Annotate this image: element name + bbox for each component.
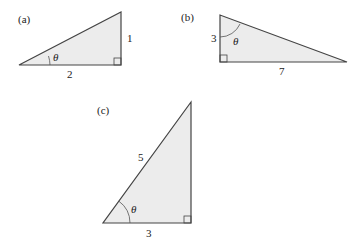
triangle-b: (b) θ 3 7 (181, 11, 347, 77)
side-adjacent-a: 2 (67, 68, 73, 80)
side-opposite-a: 1 (127, 32, 133, 44)
triangle-a: (a) θ 1 2 (18, 12, 133, 80)
side-adjacent-c: 3 (146, 227, 152, 239)
side-hypotenuse-c: 5 (138, 151, 144, 163)
side-adjacent-b: 3 (211, 32, 217, 44)
triangle-b-shape (220, 15, 347, 62)
side-opposite-b: 7 (279, 65, 285, 77)
theta-b: θ (233, 35, 239, 47)
label-c: (c) (97, 104, 110, 117)
theta-c: θ (131, 203, 137, 215)
triangle-a-shape (19, 12, 121, 65)
triangles-diagram: (a) θ 1 2 (b) θ 3 7 (c) θ 5 3 (0, 0, 362, 239)
theta-a: θ (53, 51, 59, 63)
triangle-c: (c) θ 5 3 (97, 102, 191, 239)
label-a: (a) (18, 13, 31, 26)
triangle-c-shape (103, 102, 191, 223)
label-b: (b) (181, 11, 194, 24)
